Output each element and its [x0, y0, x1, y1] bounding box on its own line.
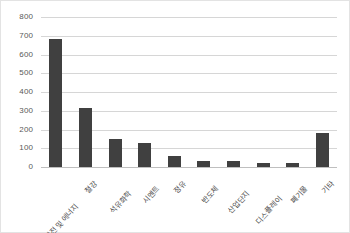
- x-axis-tick-label: 석유화학: [109, 190, 134, 216]
- x-axis-tick-label: 시멘트: [141, 185, 161, 206]
- bar: [316, 133, 329, 167]
- y-axis-tick-label: 0: [28, 163, 33, 171]
- x-axis-tick-label: 산업단지: [227, 190, 252, 216]
- bar: [168, 156, 181, 167]
- bar: [197, 161, 210, 167]
- x-axis-tick-label: 반도체: [200, 185, 220, 206]
- y-axis-tick-label: 800: [19, 13, 33, 21]
- y-axis-tick-label: 400: [19, 88, 33, 96]
- x-axis-tick-label: 폐기물: [289, 185, 309, 206]
- y-axis-tick-label: 300: [19, 107, 33, 115]
- bar: [79, 108, 92, 167]
- bar-chart: 8007006005004003002001000 발전 및 에너지철강석유화학…: [0, 0, 350, 233]
- x-axis: 발전 및 에너지철강석유화학시멘트정유반도체산업단지디스플레이폐기물기타: [41, 168, 337, 232]
- y-axis-tick-label: 200: [19, 126, 33, 134]
- x-axis-tick-label: 발전 및 에너지: [43, 203, 80, 233]
- bar: [257, 163, 270, 167]
- bar: [138, 143, 151, 167]
- bar: [286, 163, 299, 167]
- y-axis-tick-label: 600: [19, 51, 33, 59]
- y-axis-tick-label: 500: [19, 69, 33, 77]
- bar: [227, 161, 240, 167]
- y-axis: 8007006005004003002001000: [1, 17, 37, 167]
- x-axis-tick-label: 기타: [321, 180, 336, 196]
- plot-area: [41, 17, 337, 167]
- x-axis-tick-label: 철강: [84, 180, 99, 196]
- x-axis-tick-label: 디스플레이: [254, 195, 284, 226]
- bars-group: [41, 17, 337, 167]
- bar: [49, 39, 62, 167]
- y-axis-tick-label: 100: [19, 144, 33, 152]
- y-axis-tick-label: 700: [19, 32, 33, 40]
- x-axis-tick-label: 정유: [173, 180, 188, 196]
- bar: [109, 139, 122, 167]
